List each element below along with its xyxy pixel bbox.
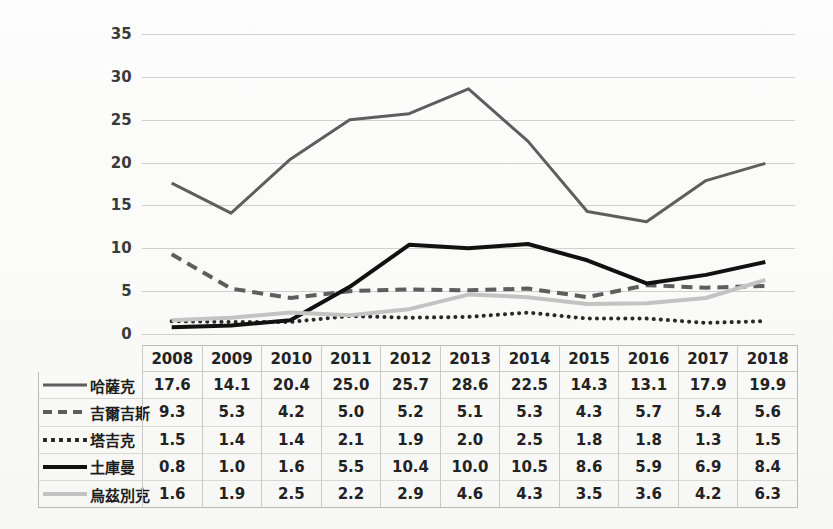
table-cell: 10.0: [440, 454, 500, 481]
y-axis: 35302520151050: [96, 34, 142, 334]
table-cell: 2.0: [440, 427, 500, 454]
legend-entry[interactable]: 土庫曼: [38, 454, 142, 481]
table-header-cell: 2018: [737, 345, 798, 372]
y-axis-tick: 15: [111, 196, 132, 214]
legend-header-blank: [38, 345, 142, 372]
legend-entry[interactable]: 烏茲別克: [38, 481, 142, 508]
y-axis-tick: 5: [121, 282, 132, 300]
table-cell: 8.6: [559, 454, 619, 481]
series-line-烏茲別克: [172, 280, 766, 320]
table-cell: 1.9: [202, 481, 262, 508]
table-cell: 6.3: [737, 481, 798, 508]
table-cell: 14.3: [559, 372, 619, 399]
table-cell: 1.8: [618, 427, 678, 454]
table-cell: 3.5: [559, 481, 619, 508]
table-cell: 4.2: [678, 481, 738, 508]
table-cell: 1.0: [202, 454, 262, 481]
table-cell: 9.3: [142, 399, 202, 426]
table-cell: 22.5: [499, 372, 559, 399]
table-cell: 4.3: [559, 399, 619, 426]
y-axis-tick: 10: [111, 239, 132, 257]
table-cell: 25.0: [321, 372, 381, 399]
table-header-cell: 2011: [321, 345, 381, 372]
legend-entry[interactable]: 哈薩克: [38, 372, 142, 399]
table-cell: 17.6: [142, 372, 202, 399]
table-cell: 5.5: [321, 454, 381, 481]
table-cell: 3.6: [618, 481, 678, 508]
table-header-cell: 2012: [380, 345, 440, 372]
y-axis-tick: 30: [111, 68, 132, 86]
table-row: 吉爾吉斯9.35.34.25.05.25.15.34.35.75.45.6: [38, 399, 798, 426]
table-row: 塔吉克1.51.41.42.11.92.02.51.81.81.31.5: [38, 427, 798, 454]
table-cell: 14.1: [202, 372, 262, 399]
dotted-dark-line-icon: [43, 434, 87, 446]
table-cell: 1.6: [142, 481, 202, 508]
series-line-哈薩克: [172, 89, 766, 222]
table-cell: 17.9: [678, 372, 738, 399]
chart-page: 35302520151050 2008200920102011201220132…: [0, 0, 833, 529]
table-cell: 10.4: [380, 454, 440, 481]
legend-label: 吉爾吉斯: [90, 402, 150, 423]
table-cell: 5.6: [737, 399, 798, 426]
table-header-cell: 2017: [678, 345, 738, 372]
y-axis-tick: 25: [111, 111, 132, 129]
table-cell: 1.4: [261, 427, 321, 454]
table-cell: 5.1: [440, 399, 500, 426]
table-cell: 5.9: [618, 454, 678, 481]
table-cell: 2.5: [499, 427, 559, 454]
dashed-gray-line-icon: [43, 406, 87, 418]
table-cell: 10.5: [499, 454, 559, 481]
legend-entry[interactable]: 塔吉克: [38, 427, 142, 454]
table-header-cell: 2010: [261, 345, 321, 372]
grid-line: [142, 334, 795, 335]
table-header-cell: 2016: [618, 345, 678, 372]
table-cell: 19.9: [737, 372, 798, 399]
table-cell: 1.3: [678, 427, 738, 454]
table-cell: 1.5: [142, 427, 202, 454]
table-cell: 1.9: [380, 427, 440, 454]
table-cell: 2.9: [380, 481, 440, 508]
table-cell: 6.9: [678, 454, 738, 481]
table-cell: 5.3: [202, 399, 262, 426]
table-cell: 2.2: [321, 481, 381, 508]
table-cell: 1.5: [737, 427, 798, 454]
legend-label: 塔吉克: [90, 429, 135, 450]
table-cell: 5.3: [499, 399, 559, 426]
table-header-cell: 2009: [202, 345, 262, 372]
y-axis-tick: 20: [111, 154, 132, 172]
table-cell: 13.1: [618, 372, 678, 399]
table-header-row: 2008200920102011201220132014201520162017…: [38, 345, 798, 372]
table-cell: 25.7: [380, 372, 440, 399]
table-cell: 2.5: [261, 481, 321, 508]
table-header-cell: 2014: [499, 345, 559, 372]
table-cell: 1.4: [202, 427, 262, 454]
table-row: 烏茲別克1.61.92.52.22.94.64.33.53.64.26.3: [38, 481, 798, 508]
table-cell: 20.4: [261, 372, 321, 399]
solid-light-line-icon: [43, 488, 87, 500]
y-axis-tick: 0: [121, 325, 132, 343]
solid-black-line-icon: [43, 461, 87, 473]
table-cell: 1.6: [261, 454, 321, 481]
legend-label: 土庫曼: [90, 456, 135, 477]
table-row: 土庫曼0.81.01.65.510.410.010.58.65.96.98.4: [38, 454, 798, 481]
legend-label: 烏茲別克: [90, 484, 150, 505]
table-cell: 5.2: [380, 399, 440, 426]
table-cell: 5.7: [618, 399, 678, 426]
table-cell: 4.6: [440, 481, 500, 508]
table-cell: 5.4: [678, 399, 738, 426]
table-header-cell: 2013: [440, 345, 500, 372]
table-cell: 4.3: [499, 481, 559, 508]
solid-gray-line-icon: [43, 379, 87, 391]
line-chart: 35302520151050: [0, 0, 833, 345]
legend-entry[interactable]: 吉爾吉斯: [38, 399, 142, 426]
table-cell: 1.8: [559, 427, 619, 454]
table-cell: 28.6: [440, 372, 500, 399]
table-header-cell: 2015: [559, 345, 619, 372]
table-cell: 0.8: [142, 454, 202, 481]
y-axis-tick: 35: [111, 25, 132, 43]
table-cell: 8.4: [737, 454, 798, 481]
series-line-吉爾吉斯: [172, 254, 766, 298]
legend-label: 哈薩克: [90, 375, 135, 396]
table-row: 哈薩克17.614.120.425.025.728.622.514.313.11…: [38, 372, 798, 399]
table-cell: 4.2: [261, 399, 321, 426]
